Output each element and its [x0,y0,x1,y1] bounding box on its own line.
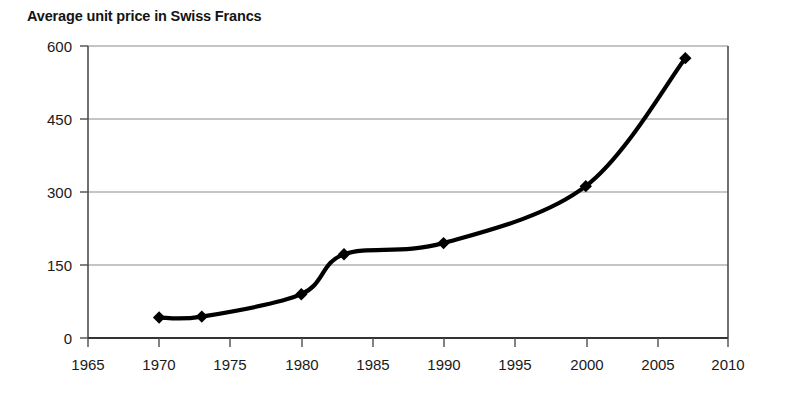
x-axis-label-1970: 1970 [142,356,175,373]
y-axis-label-300: 300 [10,184,72,201]
y-axis-label-0: 0 [10,330,72,347]
data-point-1990 [437,237,449,249]
x-axis-label-1995: 1995 [498,356,531,373]
plot-gridlines [88,46,728,265]
x-axis-label-1990: 1990 [427,356,460,373]
data-point-1983 [338,248,350,260]
data-point-markers [153,52,692,324]
x-axis-label-2010: 2010 [711,356,744,373]
x-axis-label-1965: 1965 [71,356,104,373]
data-series-line [159,58,685,318]
x-axis-label-2005: 2005 [641,356,674,373]
x-axis-label-1985: 1985 [356,356,389,373]
y-axis-label-600: 600 [10,38,72,55]
line-chart-plot [0,0,785,400]
x-axis-ticks [88,338,728,347]
y-axis-label-450: 450 [10,111,72,128]
data-point-1973 [196,310,208,322]
y-axis-ticks [80,46,88,338]
data-point-1970 [153,311,165,323]
x-axis-label-1980: 1980 [285,356,318,373]
x-axis-label-1975: 1975 [213,356,246,373]
y-axis-label-150: 150 [10,257,72,274]
x-axis-label-2000: 2000 [570,356,603,373]
chart-container: Average unit price in Swiss Francs [0,0,785,400]
